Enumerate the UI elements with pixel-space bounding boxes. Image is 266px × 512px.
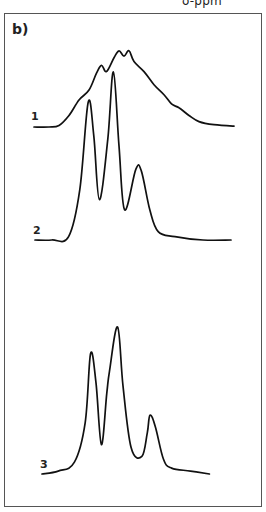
spectrum-trace-2	[35, 72, 231, 242]
spectrum-trace-1	[34, 51, 234, 127]
spectrum-trace-3	[42, 327, 209, 474]
spectra-plot	[0, 0, 266, 512]
